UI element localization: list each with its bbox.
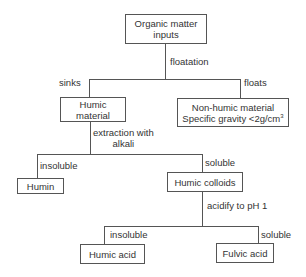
node-humic-acid: Humic acid	[80, 244, 145, 264]
connector-soluble2-down	[258, 226, 259, 243]
connector-extraction-split	[37, 154, 203, 155]
node-humic-colloids: Humic colloids	[167, 172, 243, 192]
connector-floatation-split	[89, 79, 241, 80]
connector-soluble-down	[202, 154, 203, 172]
node-humic-material-line2: material	[76, 110, 110, 121]
edge-label-extraction: extraction with alkali	[93, 127, 154, 149]
edge-label-insoluble-humic-acid: insoluble	[110, 229, 148, 240]
connector-insoluble2-down	[104, 226, 105, 244]
edge-label-acidify: acidify to pH 1	[207, 200, 267, 211]
connector-insoluble-down	[37, 154, 38, 178]
node-non-humic-line2-text: Specific gravity <2g/cm	[182, 113, 280, 124]
edge-label-insoluble-humin: insoluble	[40, 160, 78, 171]
node-non-humic-material: Non-humic material Specific gravity <2g/…	[177, 98, 289, 127]
edge-label-extraction-line2: alkali	[93, 138, 154, 149]
node-non-humic-line2: Specific gravity <2g/cm3	[182, 113, 283, 124]
node-humic-material: Humic material	[60, 97, 126, 122]
node-humin-label: Humin	[27, 181, 54, 192]
node-fulvic-acid-label: Fulvic acid	[223, 248, 268, 259]
node-humin: Humin	[17, 178, 64, 194]
node-non-humic-line1: Non-humic material	[182, 102, 283, 113]
node-fulvic-acid: Fulvic acid	[216, 243, 274, 263]
edge-label-floatation: floatation	[170, 56, 209, 67]
node-humic-acid-label: Humic acid	[89, 249, 136, 260]
node-non-humic-sup: 3	[280, 113, 283, 119]
node-organic-matter-inputs: Organic matter inputs	[125, 14, 207, 44]
connector-inputs-down	[165, 44, 166, 79]
edge-label-sinks: sinks	[59, 77, 81, 88]
node-humic-colloids-label: Humic colloids	[174, 177, 235, 188]
connector-colloids-down	[202, 191, 203, 226]
connector-floats-down	[240, 79, 241, 98]
node-humic-material-line1: Humic	[76, 99, 110, 110]
connector-acidify-split	[104, 226, 259, 227]
edge-label-floats: floats	[244, 77, 267, 88]
node-organic-line1: Organic matter	[135, 18, 198, 29]
edge-label-soluble-colloids: soluble	[205, 157, 235, 168]
connector-sinks-down	[89, 79, 90, 97]
edge-label-extraction-line1: extraction with	[93, 127, 154, 138]
connector-humic-down	[90, 121, 91, 154]
edge-label-soluble-fulvic: soluble	[261, 229, 291, 240]
node-organic-line2: inputs	[135, 29, 198, 40]
